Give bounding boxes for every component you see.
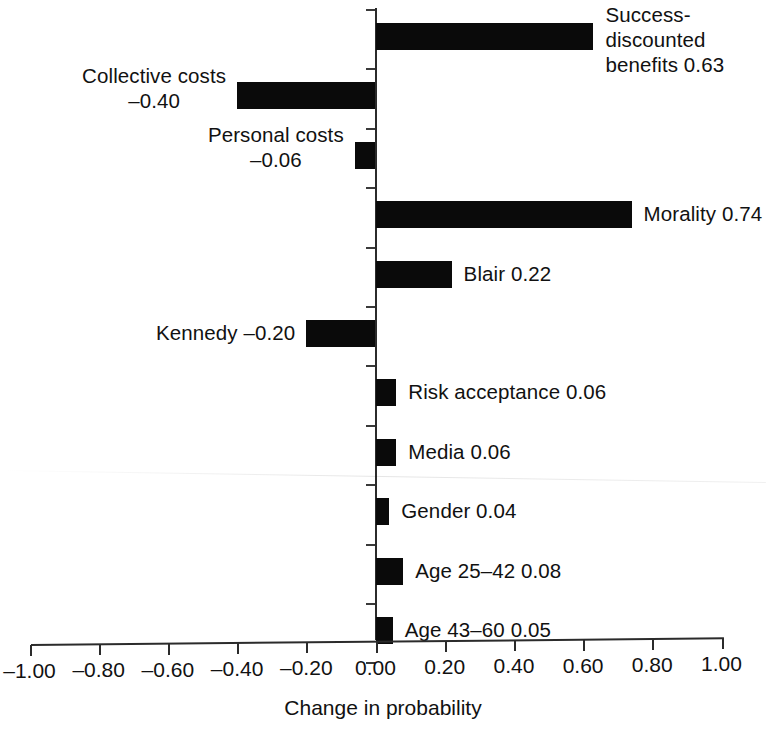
x-axis-tick-label: –0.60: [142, 658, 195, 682]
x-axis-tick-label: –0.20: [280, 656, 333, 680]
x-axis-tick: [168, 644, 170, 655]
bar: [376, 23, 594, 50]
bar-value-label: Media 0.06: [408, 439, 510, 464]
x-axis: –1.00–0.80–0.60–0.40–0.200.000.200.400.6…: [0, 630, 766, 732]
x-axis-tick-label: 1.00: [701, 652, 742, 676]
x-axis-tick: [30, 645, 32, 656]
bar-chart-figure: Success- discounted benefits 0.63Collect…: [0, 0, 766, 732]
bar: [376, 379, 397, 406]
bar: [376, 439, 397, 466]
x-axis-tick: [99, 644, 101, 655]
plot-area: Success- discounted benefits 0.63Collect…: [0, 0, 766, 640]
bar-value-label: Blair 0.22: [464, 261, 552, 286]
y-axis-tick: [366, 9, 375, 11]
x-axis-tick: [237, 643, 239, 654]
y-axis-tick: [366, 306, 375, 308]
y-axis-tick: [366, 128, 375, 130]
bar: [306, 320, 375, 347]
x-axis-tick-label: 0.80: [632, 653, 673, 677]
x-axis-title: Change in probability: [0, 696, 766, 720]
x-axis-tick: [652, 639, 654, 650]
bar: [376, 558, 404, 585]
bar: [376, 201, 632, 228]
x-axis-tick: [722, 638, 724, 649]
x-axis-tick-label: –1.00: [3, 659, 56, 683]
y-axis-tick: [366, 484, 375, 486]
bar-value-label: Collective costs –0.40: [82, 63, 226, 113]
bar-value-label: Kennedy –0.20: [156, 320, 295, 345]
x-axis-tick: [445, 641, 447, 652]
bar: [376, 498, 390, 525]
bar: [355, 142, 376, 169]
bar-value-label: Gender 0.04: [401, 498, 516, 523]
y-axis-tick: [366, 603, 375, 605]
y-axis-tick: [366, 68, 375, 70]
bar: [237, 82, 375, 109]
bar-value-label: Morality 0.74: [644, 201, 763, 226]
y-axis-tick: [366, 425, 375, 427]
x-axis-tick-label: 0.40: [493, 654, 534, 678]
bar-value-label: Risk acceptance 0.06: [408, 379, 606, 404]
x-axis-tick-label: 0.00: [355, 656, 396, 680]
y-axis-tick: [366, 365, 375, 367]
x-axis-tick: [376, 642, 378, 653]
y-axis-tick: [366, 187, 375, 189]
bar-value-label: Personal costs –0.06: [208, 122, 344, 172]
x-axis-tick: [514, 640, 516, 651]
x-axis-tick: [583, 640, 585, 651]
y-axis-tick: [366, 544, 375, 546]
x-axis-tick: [306, 642, 308, 653]
y-axis-tick: [366, 247, 375, 249]
bar-value-label: Success- discounted benefits 0.63: [605, 2, 724, 77]
x-axis-tick-label: –0.40: [211, 657, 264, 681]
x-axis-tick-label: 0.20: [424, 655, 465, 679]
x-axis-tick-label: 0.60: [563, 654, 604, 678]
bar: [376, 261, 452, 288]
bar-value-label: Age 25–42 0.08: [415, 558, 561, 583]
x-axis-tick-label: –0.80: [72, 658, 125, 682]
